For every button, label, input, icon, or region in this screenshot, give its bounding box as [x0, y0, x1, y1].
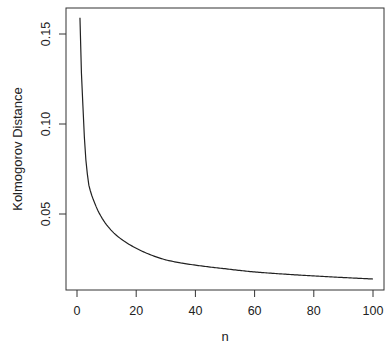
y-axis-title: Kolmogorov Distance [10, 87, 25, 211]
x-tick-label: 100 [363, 304, 384, 318]
y-tick-label: 0.10 [39, 112, 53, 136]
chart: 020406080100 0.050.100.15 n Kolmogorov D… [0, 0, 392, 350]
y-tick-label: 0.15 [39, 22, 53, 46]
plot-frame [66, 8, 384, 290]
x-tick-label: 20 [129, 304, 143, 318]
x-tick-label: 80 [307, 304, 321, 318]
y-axis: 0.050.100.15 [39, 22, 66, 226]
x-tick-label: 40 [188, 304, 202, 318]
x-tick-label: 0 [74, 304, 81, 318]
x-tick-label: 60 [248, 304, 262, 318]
data-line [80, 18, 373, 279]
y-tick-label: 0.05 [39, 202, 53, 226]
x-axis-title: n [221, 329, 228, 344]
x-axis: 020406080100 [74, 290, 384, 318]
